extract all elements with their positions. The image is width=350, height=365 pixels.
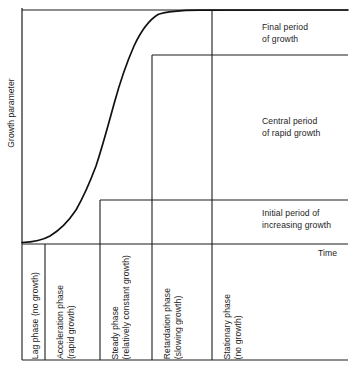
phase-label-steady-line1: Steady phase (110, 306, 120, 359)
phase-label-stationary-line1: Stationary phase (222, 294, 232, 359)
x-axis-label: Time (318, 248, 337, 260)
phase-label-retardation-line2: (slowing growth) (173, 288, 184, 359)
phase-label-stationary-line2: (no growth) (233, 294, 244, 359)
phase-label-acceleration-line2: (rapid growth) (66, 285, 77, 359)
phase-label-lag-line1: Lag phase (no growth) (30, 272, 40, 359)
growth-curve-figure: Growth parameter Time Final period of gr… (0, 0, 350, 365)
final-period-annotation: Final period of growth (262, 22, 308, 45)
y-axis-label: Growth parameter (6, 58, 16, 168)
phase-label-stationary: Stationary phase (no growth) (222, 294, 243, 359)
central-period-line2: of rapid growth (262, 128, 320, 140)
phase-label-steady: Steady phase (relatively constant growth… (110, 255, 131, 359)
central-period-annotation: Central period of rapid growth (262, 116, 320, 139)
initial-period-line1: Initial period of (262, 208, 331, 220)
initial-period-line2: increasing growth (262, 220, 331, 232)
phase-label-retardation-line1: Retardation phase (162, 288, 172, 359)
final-period-line1: Final period (262, 22, 308, 34)
central-period-line1: Central period (262, 116, 320, 128)
phase-label-acceleration-line1: Acceleration phase (55, 285, 65, 359)
phase-label-lag: Lag phase (no growth) (30, 272, 41, 359)
final-period-line2: of growth (262, 34, 308, 46)
initial-period-annotation: Initial period of increasing growth (262, 208, 331, 231)
phase-label-steady-line2: (relatively constant growth) (121, 255, 132, 359)
phase-label-acceleration: Acceleration phase (rapid growth) (55, 285, 76, 359)
phase-label-retardation: Retardation phase (slowing growth) (162, 288, 183, 359)
